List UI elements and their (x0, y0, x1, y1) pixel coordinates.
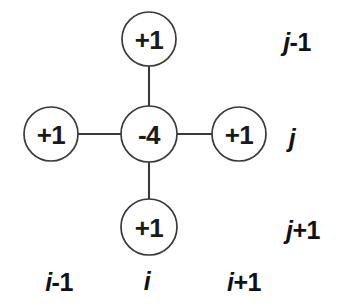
col-i-minus-1-offset: -1 (52, 268, 73, 296)
row-j-variable: j (289, 124, 295, 152)
row-j-minus-1-offset: -1 (290, 28, 311, 56)
col-i: i (144, 269, 150, 294)
stencil-figure: +1 +1 -4 +1 +1 j-1jj+1i-1ii+1 (0, 0, 338, 307)
col-i-variable: i (144, 267, 150, 295)
col-i-plus-1-offset: +1 (233, 268, 261, 296)
node-label-top: +1 (135, 27, 164, 53)
node-label-bottom: +1 (135, 215, 164, 241)
col-i-minus-1: i-1 (45, 270, 73, 295)
row-j-minus-1: j-1 (283, 30, 311, 55)
node-label-center: -4 (138, 122, 160, 148)
row-j-plus-1: j+1 (286, 218, 320, 243)
row-j: j (289, 126, 295, 151)
col-i-plus-1: i+1 (227, 270, 261, 295)
node-label-right: +1 (225, 122, 254, 148)
node-label-left: +1 (37, 122, 66, 148)
row-j-plus-1-offset: +1 (292, 216, 320, 244)
